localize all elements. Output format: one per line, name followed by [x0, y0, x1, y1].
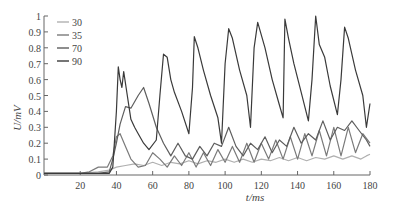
- y-tick-label: 0.6: [29, 75, 42, 86]
- y-tick-label: 1: [36, 11, 41, 22]
- chart-canvas: 00.10.20.30.40.50.60.70.80.9120406080100…: [0, 0, 393, 210]
- x-tick-label: 140: [290, 180, 305, 191]
- y-tick-label: 0.5: [29, 91, 42, 102]
- y-tick-label: 0.8: [29, 43, 42, 54]
- series-line-90: [44, 16, 370, 173]
- y-tick-label: 0.9: [29, 27, 42, 38]
- x-tick-label: 180: [363, 180, 378, 191]
- y-tick-label: 0.4: [29, 106, 42, 117]
- x-tick-label: 120: [254, 180, 269, 191]
- series-lines: [44, 16, 370, 173]
- x-tick-label: 40: [111, 180, 121, 191]
- y-tick-label: 0: [36, 170, 41, 181]
- x-tick-label: 160: [326, 180, 341, 191]
- x-tick-label: 60: [148, 180, 158, 191]
- x-tick-label: 20: [75, 180, 85, 191]
- legend-label: 30: [72, 17, 82, 28]
- line-chart: 00.10.20.30.40.50.60.70.80.9120406080100…: [0, 0, 393, 210]
- x-tick-label: 100: [218, 180, 233, 191]
- legend-label: 35: [72, 30, 82, 41]
- legend: 30357090: [57, 17, 82, 67]
- y-axis-label: U/mV: [11, 104, 23, 131]
- x-axis-label: t/ms: [246, 191, 264, 203]
- y-tick-label: 0.2: [29, 138, 42, 149]
- legend-label: 90: [72, 56, 82, 67]
- y-tick-label: 0.7: [29, 59, 42, 70]
- x-tick-label: 80: [184, 180, 194, 191]
- legend-label: 70: [72, 43, 82, 54]
- y-tick-label: 0.3: [29, 122, 42, 133]
- series-line-35: [44, 127, 370, 173]
- y-tick-label: 0.1: [29, 154, 42, 165]
